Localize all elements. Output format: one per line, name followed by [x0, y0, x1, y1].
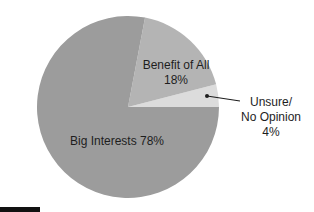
slice-label-unsure-line2: No Opinion: [241, 110, 301, 124]
pie-chart: Benefit of All 18% Big Interests 78% Uns…: [0, 0, 314, 212]
pie-slices: [37, 16, 219, 198]
slice-value-benefit-of-all: 18%: [164, 73, 188, 87]
slice-value-unsure: 4%: [262, 125, 280, 139]
slice-label-unsure-line1: Unsure/: [250, 95, 293, 109]
slice-label-big-interests: Big Interests 78%: [70, 134, 164, 148]
slice-label-benefit-of-all: Benefit of All: [143, 58, 210, 72]
corner-bar: [0, 207, 40, 212]
